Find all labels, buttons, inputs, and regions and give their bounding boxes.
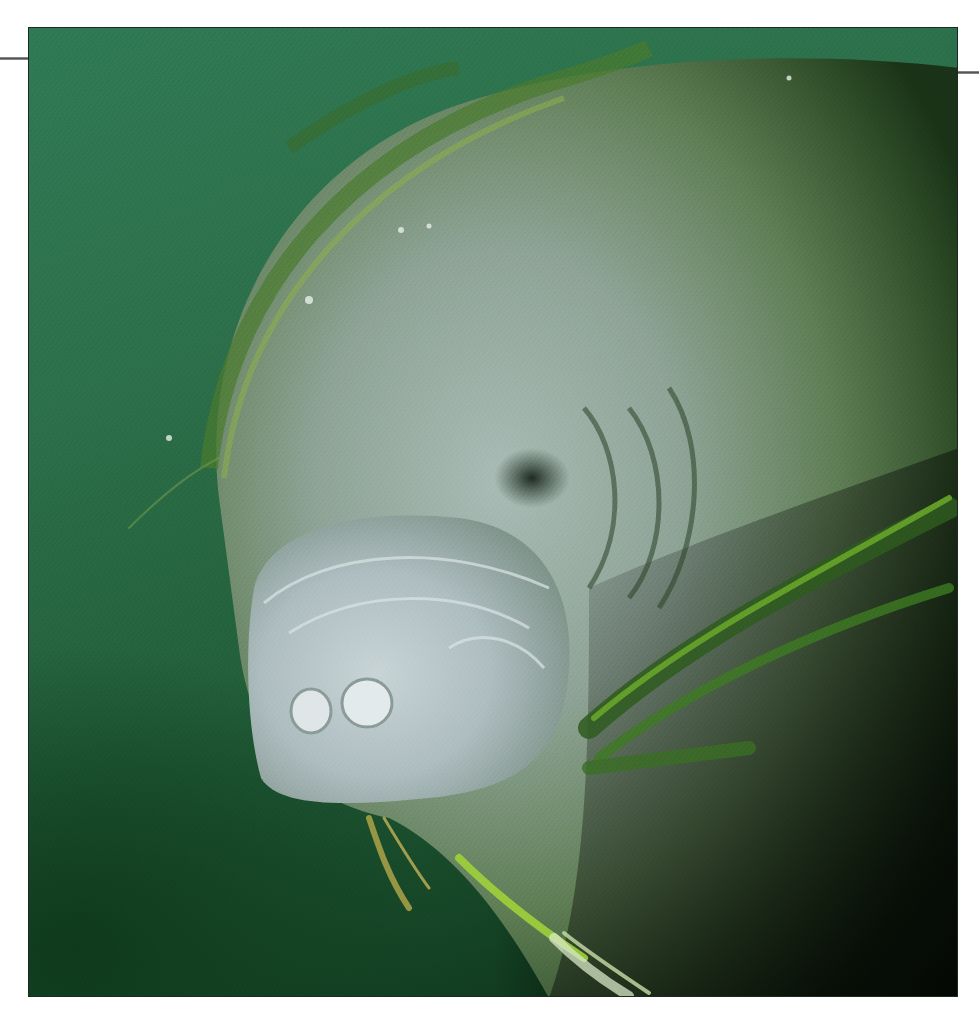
left-rule-line: [0, 57, 28, 60]
right-rule-line: [958, 71, 979, 74]
film-grain: [29, 28, 957, 996]
manatee-photo: [28, 27, 958, 997]
